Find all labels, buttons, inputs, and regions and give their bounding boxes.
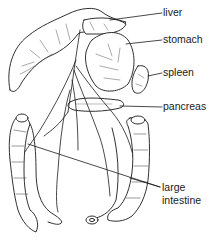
label-stomach: stomach [163,34,203,45]
stomach-shape [85,33,134,92]
label-liver: liver [163,7,182,18]
large-intestine-right [86,116,150,224]
spleen-shape [132,66,149,94]
large-intestine-left [9,114,62,232]
label-intestine: intestine [162,195,201,206]
label-spleen: spleen [163,67,194,78]
label-large: large [162,182,185,193]
label-pancreas: pancreas [163,101,206,112]
anatomy-diagram: liver stomach spleen pancreas large inte… [0,0,210,240]
